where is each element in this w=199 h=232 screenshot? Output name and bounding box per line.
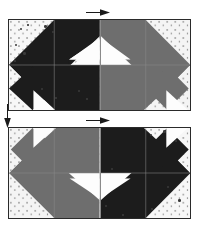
- block-top-right[interactable]: [100, 20, 191, 110]
- middle-pressing-arrow-icon: [86, 116, 110, 125]
- bottom-row: [8, 127, 191, 219]
- block-top-left[interactable]: [9, 20, 100, 110]
- left-pressing-arrow-icon: [3, 104, 12, 128]
- bottom-row-block-pair: [8, 127, 191, 219]
- block-bottom-right[interactable]: [100, 128, 191, 218]
- quilt-diagram-canvas: [0, 0, 199, 232]
- block-bottom-left[interactable]: [9, 128, 100, 218]
- top-pressing-arrow-icon: [86, 8, 110, 17]
- top-row-block-pair: [8, 19, 191, 111]
- top-row: [8, 19, 191, 111]
